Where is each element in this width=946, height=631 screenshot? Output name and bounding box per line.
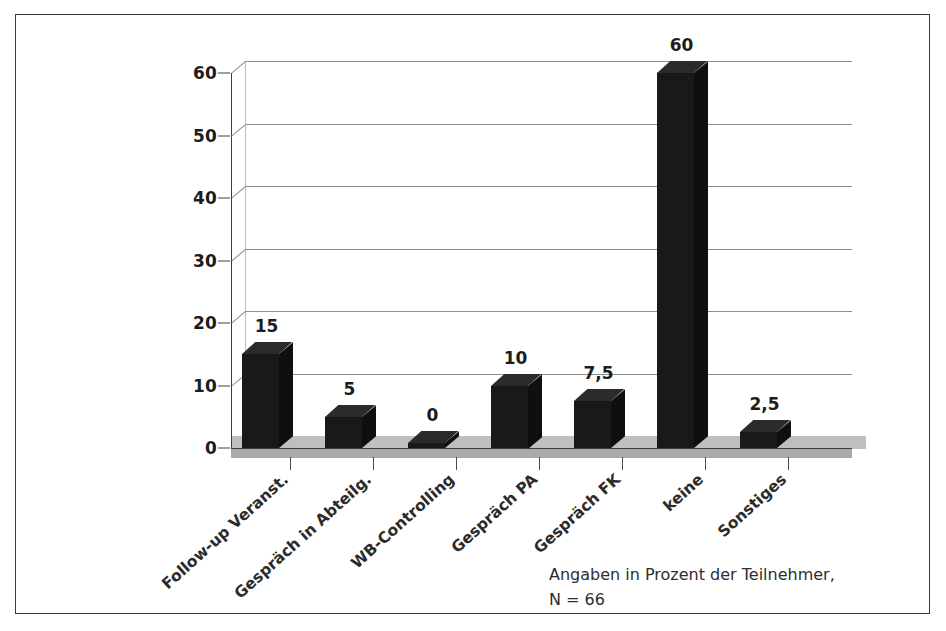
y-tick-label: 10 xyxy=(157,376,217,396)
bar xyxy=(657,73,694,457)
y-tick-mark xyxy=(218,135,230,136)
chart-frame: 0102030405060 1550107,5602,5 Follow-up V… xyxy=(15,14,930,614)
chart-note: Angaben in Prozent der Teilnehmer, N = 6… xyxy=(549,563,835,613)
bar-front-face xyxy=(657,73,694,448)
bar-value-label: 7,5 xyxy=(554,363,644,383)
y-tick-label: 30 xyxy=(157,251,217,271)
bar-value-label: 5 xyxy=(305,379,395,399)
bar-value-label: 60 xyxy=(637,35,727,55)
x-tick-mark xyxy=(290,457,291,470)
gridline xyxy=(245,124,852,125)
gridline xyxy=(245,311,852,312)
bar xyxy=(740,432,777,457)
bar-value-label: 0 xyxy=(388,405,478,425)
y-tick-label: 20 xyxy=(157,313,217,333)
x-tick-mark xyxy=(788,457,789,470)
bar-side-face xyxy=(694,61,708,448)
y-tick-mark xyxy=(218,73,230,74)
y-tick-mark xyxy=(218,448,230,449)
gridline-depth-connector xyxy=(231,61,246,74)
x-tick-mark xyxy=(373,457,374,470)
y-tick-label: 50 xyxy=(157,126,217,146)
gridline-depth-connector xyxy=(231,248,246,261)
bar-side-face xyxy=(528,374,542,448)
gridline xyxy=(245,61,852,62)
gridline-depth-connector xyxy=(231,186,246,199)
bar-value-label: 10 xyxy=(471,348,561,368)
bar xyxy=(408,448,445,457)
gridline xyxy=(245,186,852,187)
bar-front-face xyxy=(491,386,528,449)
chart-note-line-1: Angaben in Prozent der Teilnehmer, xyxy=(549,563,835,588)
gridline xyxy=(245,249,852,250)
bar-front-face xyxy=(408,443,445,448)
plot-area: 0102030405060 1550107,5602,5 xyxy=(231,73,852,448)
y-tick-label: 40 xyxy=(157,188,217,208)
bar-value-label: 15 xyxy=(222,316,312,336)
y-tick-mark xyxy=(218,385,230,386)
y-axis-line xyxy=(231,73,232,448)
bar-front-face xyxy=(740,432,777,448)
bar-value-label: 2,5 xyxy=(720,394,810,414)
y-tick-mark xyxy=(218,260,230,261)
bar-front-face xyxy=(242,354,279,448)
gridline xyxy=(245,374,852,375)
chart-note-line-2: N = 66 xyxy=(549,588,835,613)
bar xyxy=(574,401,611,457)
x-tick-mark xyxy=(705,457,706,470)
bar-front-face xyxy=(574,401,611,448)
y-tick-mark xyxy=(218,198,230,199)
gridline-depth-connector xyxy=(231,123,246,136)
bar-side-face xyxy=(279,343,293,448)
chart-figure: 0102030405060 1550107,5602,5 Follow-up V… xyxy=(0,0,946,631)
x-tick-mark xyxy=(539,457,540,470)
y-tick-label: 60 xyxy=(157,63,217,83)
y-tick-label: 0 xyxy=(157,438,217,458)
bar xyxy=(325,417,362,457)
x-tick-mark xyxy=(456,457,457,470)
bar xyxy=(491,386,528,458)
bar xyxy=(242,354,279,457)
x-axis-label: Follow-up Veranst. xyxy=(87,470,292,631)
bar-front-face xyxy=(325,417,362,448)
x-tick-mark xyxy=(622,457,623,470)
